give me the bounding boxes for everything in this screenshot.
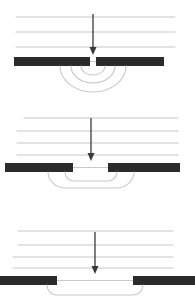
- barrier-left: [0, 276, 57, 285]
- barrier-left: [14, 57, 90, 66]
- barrier-right: [133, 276, 195, 285]
- barrier-right: [96, 57, 164, 66]
- figure-background: [0, 0, 195, 307]
- barrier-right: [108, 163, 180, 172]
- barrier-left: [5, 163, 73, 172]
- diffraction-figure: [0, 0, 195, 307]
- diffraction-svg: [0, 0, 195, 307]
